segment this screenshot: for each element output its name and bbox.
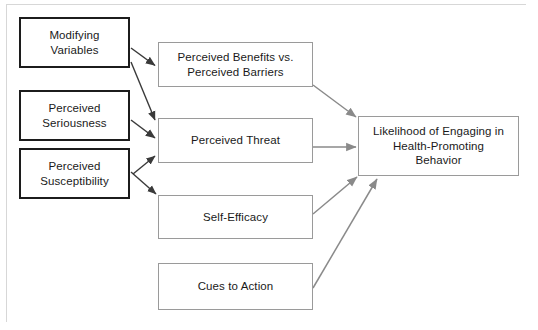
- node-cues-to-action-label: Cues to Action: [194, 279, 278, 294]
- node-perceived-seriousness[interactable]: Perceived Seriousness: [19, 90, 130, 141]
- edge-cues-to-likelihood: [313, 179, 377, 288]
- edge-susceptibility-to-self-efficacy: [131, 172, 156, 194]
- node-perceived-threat-label: Perceived Threat: [187, 133, 284, 148]
- node-cues-to-action[interactable]: Cues to Action: [158, 263, 313, 310]
- edge-modifying-to-threat: [131, 62, 155, 120]
- edge-benefits-to-likelihood: [313, 85, 356, 117]
- node-perceived-benefits-vs-barriers-label: Perceived Benefits vs. Perceived Barrier…: [174, 50, 298, 79]
- node-perceived-threat[interactable]: Perceived Threat: [158, 118, 313, 163]
- node-perceived-benefits-vs-barriers[interactable]: Perceived Benefits vs. Perceived Barrier…: [158, 42, 313, 87]
- edge-modifying-to-benefits: [131, 48, 155, 66]
- edge-seriousness-to-threat: [131, 120, 155, 138]
- node-self-efficacy[interactable]: Self-Efficacy: [158, 195, 313, 239]
- node-perceived-susceptibility[interactable]: Perceived Susceptibility: [19, 148, 130, 199]
- node-likelihood-of-engaging-label: Likelihood of Engaging in Health-Promoti…: [369, 124, 508, 168]
- edge-susceptibility-to-threat: [133, 156, 155, 174]
- node-perceived-susceptibility-label: Perceived Susceptibility: [36, 159, 113, 188]
- health-belief-model-diagram: Modifying Variables Perceived Seriousnes…: [0, 0, 538, 330]
- node-self-efficacy-label: Self-Efficacy: [199, 210, 272, 225]
- node-perceived-seriousness-label: Perceived Seriousness: [38, 101, 110, 130]
- node-likelihood-of-engaging[interactable]: Likelihood of Engaging in Health-Promoti…: [358, 116, 519, 176]
- node-modifying-variables[interactable]: Modifying Variables: [19, 17, 130, 68]
- edge-self-efficacy-to-likelihood: [313, 177, 357, 214]
- node-modifying-variables-label: Modifying Variables: [45, 28, 103, 57]
